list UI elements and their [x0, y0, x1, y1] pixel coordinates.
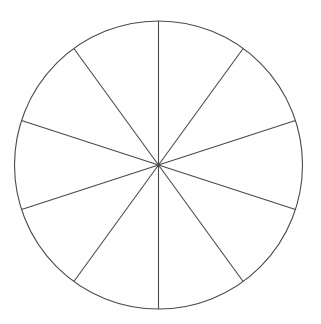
pie-slice-dividers — [22, 21, 296, 309]
pie-chart-svg — [0, 0, 321, 324]
pie-slice-divider — [159, 121, 296, 166]
pie-slice-divider — [159, 49, 244, 166]
pie-slice-divider — [159, 165, 296, 210]
pie-slice-divider — [22, 165, 159, 210]
pie-slice-divider — [159, 165, 244, 282]
pie-slice-divider — [74, 49, 159, 166]
pie-chart — [0, 0, 321, 324]
pie-slice-divider — [22, 121, 159, 166]
pie-slice-divider — [74, 165, 159, 282]
